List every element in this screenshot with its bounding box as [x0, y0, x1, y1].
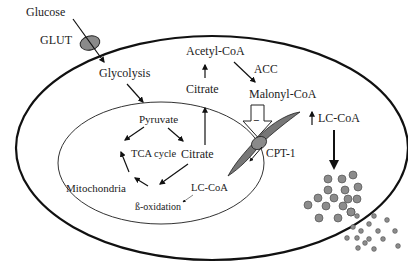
beta-oxidation-label: ß-oxidation [135, 201, 181, 212]
cpt1-label: CPT-1 [266, 147, 296, 159]
lc-coa-mito-label: LC-CoA [191, 182, 228, 193]
glycolysis-to-pyruvate-arrow [127, 84, 143, 102]
mitochondria-label: Mitochondria [66, 182, 126, 194]
glut-label: GLUT [40, 33, 73, 47]
acetylcoa-to-malonylcoa-arrow [234, 62, 255, 82]
pyruvate-to-tca-arrow [125, 127, 144, 140]
pyruvate-label: Pyruvate [139, 113, 178, 125]
glycolysis-label: Glycolysis [99, 66, 151, 80]
acc-label: ACC [254, 63, 278, 75]
citrate-cyto-label: Citrate [186, 82, 219, 96]
pyruvate-to-citrate-arrow [168, 128, 183, 141]
lc-coa-cyto-label: LC-CoA [318, 111, 360, 125]
cycle-bottom-to-left-arrow [135, 178, 148, 186]
tca-cycle-label: TCA cycle [131, 148, 177, 159]
acetyl-coa-label: Acetyl-CoA [186, 44, 245, 58]
glucose-label: Glucose [26, 5, 65, 19]
lipid-droplets-large [304, 171, 362, 222]
lccoa-to-betaox-arrow [183, 195, 193, 202]
metabolic-pathway-diagram: Glucose GLUT Glycolysis Pyruvate TCA cyc… [0, 0, 408, 265]
citrate-mito-label: Citrate [181, 147, 214, 161]
cycle-left-to-top-arrow [121, 152, 129, 172]
citrate-to-cycle-arrow [160, 164, 188, 184]
malonyl-coa-label: Malonyl-CoA [249, 87, 317, 101]
inhibition-sign: − [253, 114, 259, 126]
lipid-droplets-small [345, 214, 401, 252]
